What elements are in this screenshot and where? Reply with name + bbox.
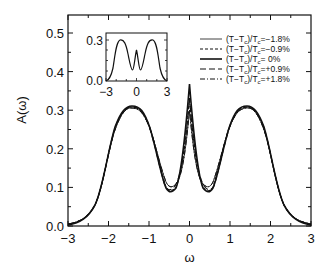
series-plus-1.8 bbox=[68, 108, 311, 224]
svg-text:3: 3 bbox=[307, 231, 314, 246]
svg-text:0.3: 0.3 bbox=[86, 34, 103, 48]
series-plus-0.9 bbox=[68, 98, 311, 224]
svg-text:0.2: 0.2 bbox=[46, 142, 64, 157]
series-minus-1.8 bbox=[68, 108, 311, 224]
x-axis-label: ω bbox=[184, 250, 194, 265]
svg-text:−1: −1 bbox=[142, 231, 157, 246]
svg-text:−3: −3 bbox=[99, 85, 113, 99]
legend-item-plus-1.8: (T−Tc)/Tc=+1.8% bbox=[200, 74, 290, 85]
spectral-function-chart: 0.0 0.1 0.2 0.3 0.4 0.5 A(ω) −3 −2 −1 0 … bbox=[0, 0, 330, 277]
svg-text:1: 1 bbox=[226, 231, 233, 246]
svg-text:−3: −3 bbox=[61, 231, 76, 246]
y-tick-labels: 0.0 0.1 0.2 0.3 0.4 0.5 bbox=[46, 26, 64, 234]
svg-text:(T−Tc)/Tc=+1.8%: (T−Tc)/Tc=+1.8% bbox=[226, 74, 290, 85]
svg-text:0.3: 0.3 bbox=[46, 103, 64, 118]
legend: (T−Tc)/Tc=−1.8% (T−Tc)/Tc=−0.9% (T−Tc)/T… bbox=[200, 34, 290, 85]
y-axis-label: A(ω) bbox=[14, 96, 29, 123]
svg-text:0: 0 bbox=[186, 231, 193, 246]
svg-text:0: 0 bbox=[133, 85, 140, 99]
data-curves bbox=[68, 84, 311, 225]
svg-text:−2: −2 bbox=[101, 231, 116, 246]
svg-text:2: 2 bbox=[267, 231, 274, 246]
x-tick-labels: −3 −2 −1 0 1 2 3 bbox=[61, 231, 315, 246]
svg-text:0.1: 0.1 bbox=[46, 180, 64, 195]
svg-text:3: 3 bbox=[164, 85, 171, 99]
svg-text:0.4: 0.4 bbox=[46, 65, 64, 80]
series-minus-0.9 bbox=[68, 99, 311, 224]
inset-plot: 0.3 0.0 −3 0 3 bbox=[86, 33, 170, 99]
svg-text:0.5: 0.5 bbox=[46, 26, 64, 41]
